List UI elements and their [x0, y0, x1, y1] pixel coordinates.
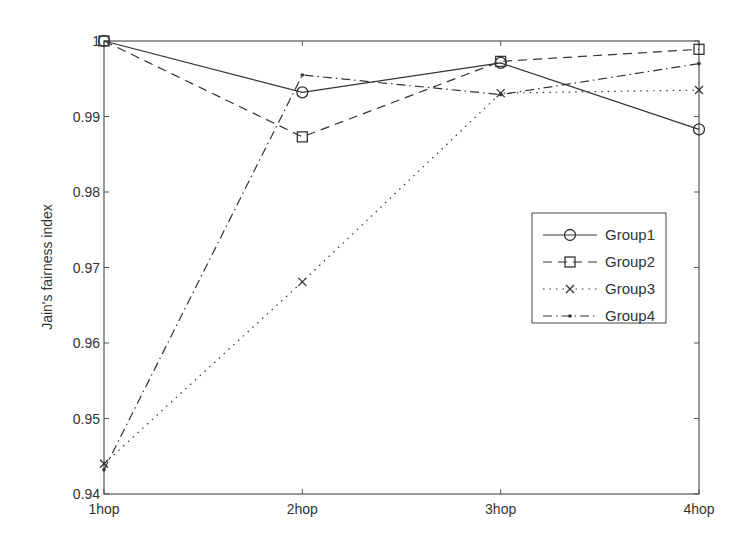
legend-group4-marker: [568, 314, 572, 318]
y-tick-label: 0.98: [73, 184, 100, 200]
x-tick-label: 2hop: [287, 501, 318, 517]
legend-label: Group4: [605, 307, 655, 324]
y-tick-label: 0.95: [73, 411, 100, 427]
y-tick-label: 0.99: [73, 109, 100, 125]
line-chart: 0.940.950.960.970.980.991 1hop2hop3hop4h…: [0, 0, 755, 552]
group4-marker: [102, 468, 106, 472]
y-tick-label: 0.97: [73, 260, 100, 276]
x-tick-label: 4hop: [683, 501, 714, 517]
legend-label: Group2: [605, 253, 655, 270]
x-tick-label: 1hop: [88, 501, 119, 517]
group4-marker: [697, 62, 701, 66]
x-tick-label: 3hop: [485, 501, 516, 517]
group4-marker: [301, 73, 305, 77]
y-tick-label: 0.96: [73, 335, 100, 351]
legend: Group1Group2Group3Group4: [532, 213, 666, 324]
legend-label: Group1: [605, 226, 655, 243]
y-tick-label: 0.94: [73, 486, 100, 502]
legend-label: Group3: [605, 280, 655, 297]
y-axis-label: Jain's fairness index: [39, 204, 55, 330]
group4-marker: [499, 93, 503, 97]
